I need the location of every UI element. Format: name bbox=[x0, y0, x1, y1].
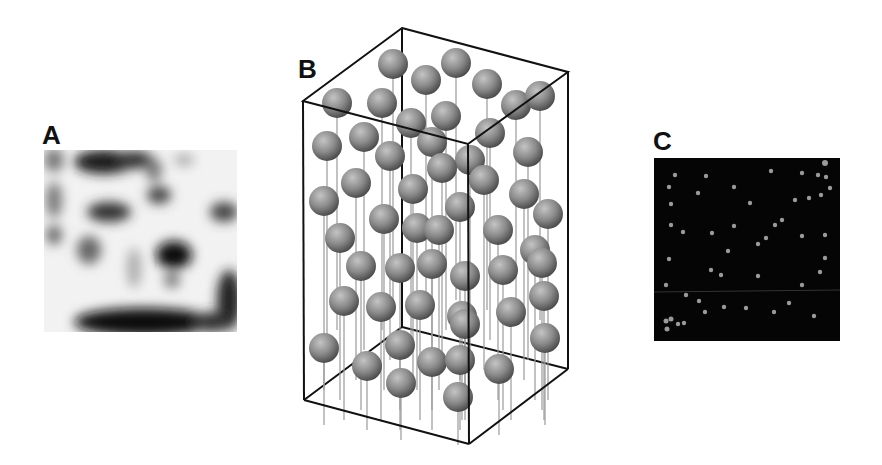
panel-c-dot-image bbox=[654, 158, 840, 341]
panel-c-label: C bbox=[653, 128, 672, 154]
sphere-group bbox=[309, 48, 563, 445]
panel-a-label: A bbox=[42, 122, 61, 148]
panel-a-density-map bbox=[44, 150, 237, 332]
panel-b-sphere-box bbox=[295, 20, 580, 455]
